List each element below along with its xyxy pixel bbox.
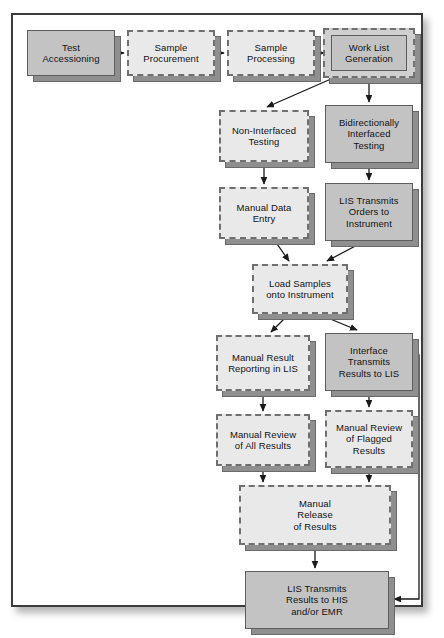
node-label: Test Accessioning — [39, 42, 102, 65]
node-label: Manual Review of All Results — [227, 429, 299, 452]
node-label: Manual Review of Flagged Results — [333, 422, 405, 457]
node-label: Load Samples onto Instrument — [263, 278, 337, 301]
node-bidirectional-testing[interactable]: Bidirectionally Interfaced Testing — [325, 105, 413, 163]
node-label: Non-Interfaced Testing — [229, 125, 299, 148]
node-body: Manual Review of All Results — [216, 414, 310, 466]
node-label: LIS Transmits Orders to Instrument — [336, 195, 401, 230]
node-body: LIS Transmits Results to HIS and/or EMR — [245, 571, 389, 629]
node-body: Bidirectionally Interfaced Testing — [325, 105, 413, 163]
edge-worklist-noninterfaced — [267, 79, 331, 107]
node-body: Interface Transmits Results to LIS — [325, 333, 413, 391]
node-label: Bidirectionally Interfaced Testing — [336, 117, 402, 152]
node-body: Non-Interfaced Testing — [219, 110, 309, 162]
node-label: Sample Processing — [244, 42, 298, 65]
node-test-accessioning[interactable]: Test Accessioning — [27, 30, 115, 76]
node-body: Manual Release of Results — [239, 485, 391, 545]
node-body: Test Accessioning — [27, 30, 115, 76]
node-interface-transmits[interactable]: Interface Transmits Results to LIS — [325, 333, 413, 391]
node-manual-data-entry[interactable]: Manual Data Entry — [219, 187, 309, 239]
node-label: Manual Result Reporting in LIS — [225, 352, 301, 375]
node-body: Manual Data Entry — [219, 187, 309, 239]
node-manual-review-all[interactable]: Manual Review of All Results — [216, 414, 310, 466]
node-body: Manual Result Reporting in LIS — [216, 335, 310, 391]
node-label: LIS Transmits Results to HIS and/or EMR — [283, 583, 351, 618]
node-body: Work List Generation — [323, 28, 415, 78]
node-non-interfaced-testing[interactable]: Non-Interfaced Testing — [219, 110, 309, 162]
node-label: Manual Data Entry — [234, 202, 295, 225]
diagram-canvas: Test Accessioning Sample Procurement Sam… — [13, 15, 425, 609]
diagram-frame: Test Accessioning Sample Procurement Sam… — [11, 13, 423, 607]
node-load-samples[interactable]: Load Samples onto Instrument — [252, 264, 348, 314]
node-manual-release[interactable]: Manual Release of Results — [239, 485, 391, 545]
node-label: Manual Release of Results — [290, 498, 339, 533]
node-lis-transmits-results[interactable]: LIS Transmits Results to HIS and/or EMR — [245, 571, 389, 629]
node-label: Sample Procurement — [140, 42, 201, 65]
node-lis-transmits-orders[interactable]: LIS Transmits Orders to Instrument — [325, 183, 413, 241]
node-body: LIS Transmits Orders to Instrument — [325, 183, 413, 241]
node-body: Manual Review of Flagged Results — [325, 410, 413, 468]
node-body: Sample Procurement — [127, 30, 215, 76]
node-sample-procurement[interactable]: Sample Procurement — [127, 30, 215, 76]
node-inner-box: Work List Generation — [331, 35, 407, 71]
node-body: Load Samples onto Instrument — [252, 264, 348, 314]
node-body: Sample Processing — [227, 30, 315, 76]
node-label: Work List Generation — [342, 42, 396, 65]
node-manual-review-flagged[interactable]: Manual Review of Flagged Results — [325, 410, 413, 468]
node-sample-processing[interactable]: Sample Processing — [227, 30, 315, 76]
node-label: Interface Transmits Results to LIS — [336, 345, 403, 380]
node-work-list-generation[interactable]: Work List Generation — [323, 28, 415, 78]
node-manual-result-reporting[interactable]: Manual Result Reporting in LIS — [216, 335, 310, 391]
